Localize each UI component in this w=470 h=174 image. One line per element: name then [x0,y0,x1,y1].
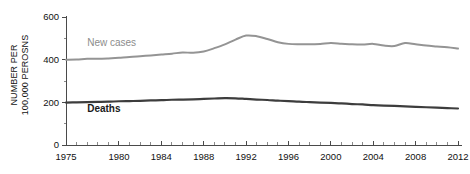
x-tick-label: 1984 [151,151,172,162]
series-label-deaths: Deaths [87,103,121,114]
x-tick-label: 1975 [55,151,76,162]
y-tick-labels: 0200400600 [43,11,59,150]
y-tick-label: 600 [43,11,59,22]
y-tick-label: 200 [43,97,59,108]
x-tick-label: 2000 [320,151,341,162]
series-line-deaths [66,98,458,108]
y-tick-label: 0 [54,139,59,150]
series-label-new-cases: New cases [87,37,136,48]
x-major-tick-marks [66,141,458,145]
line-chart-plot: 0200400600 19751980198419881992199620002… [0,0,470,174]
series-annotations: New casesDeaths [87,37,136,115]
x-tick-label: 1988 [193,151,214,162]
x-tick-label: 2004 [363,151,384,162]
y-tick-label: 400 [43,54,59,65]
chart-container: 100,000 PEROSNS NUMBER PER 0200400600 19… [0,0,470,174]
x-tick-label: 1980 [108,151,129,162]
x-tick-label: 2012 [447,151,468,162]
x-tick-label: 1992 [236,151,257,162]
x-tick-label: 2008 [405,151,426,162]
x-tick-label: 1996 [278,151,299,162]
x-tick-labels: 1975198019841988199219962000200420082012 [55,151,468,162]
